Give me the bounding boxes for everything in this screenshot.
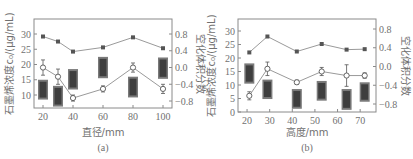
square-marker [56, 40, 60, 44]
y-right-tick-label: −0.4 [379, 80, 397, 91]
square-marker [295, 50, 299, 54]
x-tick-label: 20 [38, 111, 48, 122]
y-left-axis-label: 石墨烯浓度c₀/(μg/mL) [3, 12, 15, 114]
x-tick-label: 100 [156, 111, 171, 122]
y-left-tick-label: 20 [21, 59, 31, 70]
chart-panel-b: 2030405060700510152025300.80.40.0−0.4−0.… [205, 14, 412, 154]
x-axis-label: 直径/mm [82, 126, 125, 138]
chart-panel-a: 2040608010010152025300.80.40.0−0.4−0.8直径… [3, 12, 207, 154]
y-left-tick-label: 20 [225, 53, 235, 64]
circle-marker [70, 95, 75, 100]
y-left-tick-label: 30 [225, 26, 235, 37]
panel-caption: (b) [301, 142, 313, 154]
x-axis-label: 高度/mm [286, 126, 329, 138]
circle-marker [247, 93, 252, 98]
y-right-tick-label: 0.0 [379, 61, 392, 72]
y-right-tick-label: 0.0 [175, 62, 188, 73]
y-right-tick-label: −0.8 [379, 99, 397, 110]
y-right-tick-label: −0.4 [175, 79, 193, 90]
circle-marker [160, 86, 165, 91]
circle-marker [362, 73, 367, 78]
square-marker [345, 48, 349, 52]
y-left-axis-label: 石墨烯浓度c₀/(μg/mL) [205, 14, 217, 116]
y-left-tick-label: 25 [225, 39, 235, 50]
x-tick-label: 70 [355, 115, 365, 126]
y-left-tick-label: 10 [21, 90, 31, 101]
square-marker [41, 35, 45, 39]
circle-marker [100, 86, 105, 91]
y-left-tick-label: 25 [21, 44, 31, 55]
y-left-tick-label: 0 [230, 107, 235, 118]
square-marker [265, 35, 269, 39]
square-marker [320, 42, 324, 46]
y-right-tick-label: 0.8 [175, 29, 188, 40]
square-marker [363, 47, 367, 51]
square-marker [161, 46, 165, 50]
circle-marker [55, 74, 60, 79]
y-right-axis-label: 空化体积分数 [400, 36, 412, 96]
y-left-tick-label: 5 [230, 93, 235, 104]
circle-marker [130, 65, 135, 70]
y-right-tick-label: 0.4 [175, 45, 188, 56]
x-tick-label: 50 [310, 115, 320, 126]
y-left-tick-label: 30 [21, 29, 31, 40]
x-tick-label: 40 [287, 115, 297, 126]
square-marker [101, 45, 105, 49]
x-tick-label: 60 [333, 115, 343, 126]
x-tick-label: 80 [128, 111, 138, 122]
plot-frame [238, 19, 376, 112]
y-left-tick-label: 15 [225, 66, 235, 77]
circle-marker [40, 65, 45, 70]
x-tick-label: 40 [68, 111, 78, 122]
x-tick-label: 60 [98, 111, 108, 122]
square-marker [71, 50, 75, 54]
panel-caption: (a) [97, 142, 108, 154]
square-marker [247, 50, 251, 54]
square-marker [131, 35, 135, 39]
circle-marker [294, 80, 299, 85]
y-left-tick-label: 15 [21, 74, 31, 85]
x-tick-label: 30 [265, 115, 275, 126]
y-left-tick-label: 10 [225, 80, 235, 91]
figure: 2040608010010152025300.80.40.0−0.4−0.8直径… [0, 0, 413, 159]
circle-marker [319, 69, 324, 74]
y-right-tick-label: 0.4 [379, 42, 392, 53]
y-right-tick-label: −0.8 [175, 96, 193, 107]
y-right-tick-label: 0.8 [379, 24, 392, 35]
circle-marker [265, 66, 270, 71]
x-tick-label: 20 [242, 115, 252, 126]
circle-marker [344, 73, 349, 78]
